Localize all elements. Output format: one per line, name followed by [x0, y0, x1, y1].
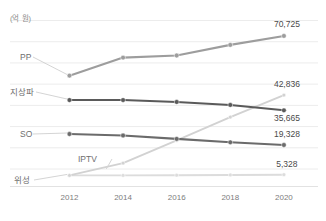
data-point	[174, 100, 179, 105]
gridlines-group	[10, 20, 318, 186]
data-point	[121, 55, 126, 60]
end-value-label-위성: 5,328	[276, 159, 298, 169]
data-point	[228, 103, 233, 108]
data-point	[121, 161, 125, 165]
data-point	[228, 140, 233, 145]
x-tick-label: 2012	[61, 193, 79, 202]
end-value-label-PP: 70,725	[274, 19, 300, 29]
unit-label: (억 원)	[10, 14, 32, 23]
leader-line-지상파	[36, 92, 67, 99]
leader-line-PP	[33, 57, 67, 75]
data-point	[174, 53, 179, 58]
x-tick-label: 2016	[168, 193, 186, 202]
data-point	[282, 93, 286, 97]
data-point	[175, 173, 179, 177]
data-point	[68, 173, 72, 177]
data-point	[67, 98, 72, 103]
x-axis-ticks: 20122014201620182020	[61, 193, 294, 202]
data-point	[282, 173, 286, 177]
data-point	[121, 133, 126, 138]
data-point	[282, 143, 287, 148]
series-label-SO: SO	[20, 129, 33, 139]
data-point	[228, 173, 232, 177]
end-value-label-지상파: 35,665	[274, 113, 300, 123]
data-point	[67, 132, 72, 137]
x-tick-label: 2014	[114, 193, 132, 202]
data-point	[121, 173, 125, 177]
end-value-label-SO: 19,328	[274, 129, 300, 139]
x-tick-label: 2020	[275, 193, 293, 202]
data-point	[228, 42, 233, 47]
data-point	[282, 108, 287, 113]
series-label-IPTV: IPTV	[78, 154, 97, 164]
data-point	[282, 34, 287, 39]
series-label-PP: PP	[20, 52, 32, 62]
x-tick-label: 2018	[221, 193, 239, 202]
data-point	[121, 98, 126, 103]
data-point	[174, 136, 179, 141]
series-label-위성: 위성	[14, 175, 30, 185]
leader-line-위성	[34, 174, 67, 180]
data-point	[67, 73, 72, 78]
chart-canvas: 20122014201620182020 70,72535,66542,8361…	[0, 0, 326, 221]
series-label-지상파: 지상파	[10, 87, 34, 97]
series-labels-group: PP지상파SO위성IPTV	[10, 52, 97, 185]
data-point	[228, 115, 232, 119]
end-value-label-IPTV: 42,836	[274, 79, 300, 89]
line-chart: 20122014201620182020 70,72535,66542,8361…	[0, 0, 326, 221]
leader-line-SO	[33, 133, 67, 134]
